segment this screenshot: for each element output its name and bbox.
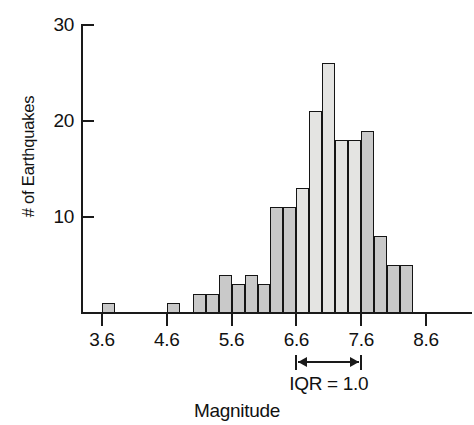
bar [309, 111, 322, 314]
y-tick-10 [81, 216, 94, 218]
y-axis-line [81, 25, 83, 314]
x-tick-5.6 [231, 314, 233, 326]
bar [361, 131, 374, 314]
x-tick-label-5.6: 5.6 [202, 330, 262, 350]
iqr-label: IQR = 1.0 [229, 374, 429, 394]
y-tick-label-20: 20 [32, 111, 74, 130]
x-tick-3.6 [101, 314, 103, 326]
x-tick-label-6.6: 6.6 [266, 330, 326, 350]
y-tick-label-30: 30 [32, 15, 74, 34]
y-tick-30 [81, 24, 94, 26]
iqr-left-cap [295, 355, 297, 370]
x-tick-label-7.6: 7.6 [331, 330, 391, 350]
bar [219, 275, 232, 314]
earthquake-magnitude-histogram: 102030 # of Earthquakes 3.64.65.66.67.68… [0, 0, 474, 425]
y-tick-20 [81, 120, 94, 122]
bar [296, 188, 309, 314]
bar [400, 265, 413, 314]
x-tick-label-8.6: 8.6 [396, 330, 456, 350]
iqr-right-arrowhead [350, 357, 359, 367]
x-tick-label-3.6: 3.6 [72, 330, 132, 350]
x-tick-label-4.6: 4.6 [137, 330, 197, 350]
x-tick-7.6 [360, 314, 362, 326]
x-tick-6.6 [295, 314, 297, 326]
bar [206, 294, 219, 314]
bar [374, 236, 387, 314]
iqr-right-cap [360, 355, 362, 370]
bar [283, 207, 296, 314]
iqr-left-arrowhead [298, 357, 307, 367]
bar [232, 284, 245, 314]
bar [270, 207, 283, 314]
x-axis-line [81, 312, 472, 314]
y-tick-label-10: 10 [32, 207, 74, 226]
bar [322, 63, 335, 314]
bar [193, 294, 206, 314]
x-tick-4.6 [166, 314, 168, 326]
bar [245, 275, 258, 314]
x-axis-title: Magnitude [0, 400, 474, 421]
bar [387, 265, 400, 314]
y-axis-title: # of Earthquakes [20, 67, 37, 247]
bar [335, 140, 348, 314]
bar [258, 284, 271, 314]
x-tick-8.6 [425, 314, 427, 326]
bar [348, 140, 361, 314]
